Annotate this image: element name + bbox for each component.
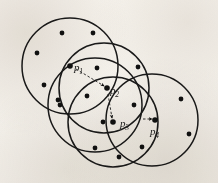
data-dot	[187, 132, 192, 137]
point-label-subscript: 1	[79, 67, 83, 76]
data-dot	[179, 97, 184, 102]
data-dot	[56, 98, 61, 103]
data-dot	[35, 51, 40, 56]
point-label-subscript: 4	[155, 131, 159, 140]
data-dot	[60, 31, 65, 36]
data-dot	[117, 155, 122, 160]
data-dot	[140, 145, 145, 150]
trajectory-point-p4	[152, 117, 158, 123]
point-label-p3: p3	[120, 118, 129, 132]
point-label-p2: p2	[110, 85, 119, 99]
data-dot	[85, 94, 90, 99]
trajectory-point-p3	[110, 119, 116, 125]
data-dot	[58, 103, 63, 108]
point-label-subscript: 2	[115, 90, 119, 99]
point-label-p4: p4	[150, 126, 159, 140]
data-dot	[136, 65, 141, 70]
circle-2	[59, 43, 149, 133]
data-dot	[101, 120, 106, 125]
data-dot	[93, 146, 98, 151]
figure-canvas: p1p2p3p4	[0, 0, 218, 183]
data-dot	[95, 66, 100, 71]
point-label-p1: p1	[74, 62, 83, 76]
trajectory-point-p1	[67, 63, 73, 69]
trajectory-point-p2	[104, 85, 110, 91]
point-label-subscript: 3	[125, 123, 129, 132]
figure-vector-layer	[0, 0, 218, 183]
data-dot	[42, 83, 47, 88]
data-dot	[132, 103, 137, 108]
data-dot	[91, 31, 96, 36]
